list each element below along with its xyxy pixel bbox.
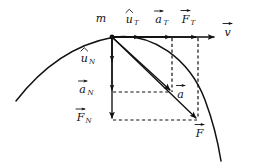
- label-velocity: v: [223, 24, 232, 40]
- label-mass: m: [96, 12, 106, 25]
- label-unit-normal-symbol: u: [81, 52, 88, 65]
- label-tangential-force-symbol: F: [181, 13, 190, 26]
- label-total-force-symbol: F: [195, 127, 204, 140]
- particle-path-curve: [16, 36, 221, 161]
- label-unit-tangent-subscript: T: [134, 19, 140, 27]
- label-total-acceleration-symbol: a: [177, 88, 184, 101]
- label-unit-normal-subscript: N: [88, 58, 96, 66]
- label-tangential-force-subscript: T: [191, 19, 197, 27]
- label-normal-force: F N: [76, 109, 93, 125]
- total-force-vector-line: [112, 37, 196, 118]
- label-tangential-acceleration-subscript: T: [163, 19, 169, 27]
- label-unit-normal: u N: [81, 48, 96, 66]
- label-total-acceleration: a: [177, 86, 186, 101]
- label-normal-force-symbol: F: [76, 111, 85, 124]
- label-total-force: F: [195, 125, 204, 141]
- label-velocity-symbol: v: [224, 26, 231, 39]
- label-unit-tangent: u T: [126, 9, 140, 27]
- label-tangential-acceleration-symbol: a: [155, 13, 162, 26]
- label-normal-force-subscript: N: [85, 117, 93, 125]
- physics-diagram: m u T a T F T v u N: [0, 0, 255, 163]
- label-tangential-acceleration: a T: [155, 11, 170, 27]
- label-normal-acceleration-subscript: N: [86, 89, 94, 97]
- label-normal-acceleration-symbol: a: [79, 83, 86, 96]
- label-tangential-force: F T: [181, 11, 197, 28]
- label-unit-tangent-symbol: u: [126, 13, 133, 26]
- label-normal-acceleration: a N: [79, 81, 95, 97]
- particle-mass-dot: [110, 35, 115, 40]
- diagram-canvas: m u T a T F T v u N: [0, 0, 255, 163]
